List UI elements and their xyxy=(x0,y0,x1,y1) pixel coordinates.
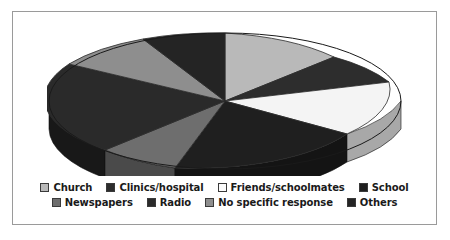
pie-chart-3d xyxy=(47,26,403,176)
legend-swatch-newspapers xyxy=(52,198,61,207)
legend-item-newspapers[interactable]: Newspapers xyxy=(52,197,133,208)
legend-swatch-others xyxy=(347,198,356,207)
chart-legend: Church Clinics/hospital Friends/schoolma… xyxy=(13,180,436,210)
legend-swatch-friends-schoolmates xyxy=(218,183,227,192)
legend-row-2: Newspapers Radio No specific response Ot… xyxy=(13,195,436,210)
legend-item-clinics-hospital[interactable]: Clinics/hospital xyxy=(106,182,203,193)
legend-item-church[interactable]: Church xyxy=(40,182,92,193)
legend-row-1: Church Clinics/hospital Friends/schoolma… xyxy=(13,180,436,195)
legend-swatch-school xyxy=(359,183,368,192)
legend-swatch-no-specific-response xyxy=(205,198,214,207)
legend-swatch-radio xyxy=(147,198,156,207)
legend-label-others: Others xyxy=(360,197,397,208)
pie-chart-area xyxy=(13,12,436,172)
legend-label-clinics-hospital: Clinics/hospital xyxy=(119,182,203,193)
legend-label-church: Church xyxy=(53,182,92,193)
legend-item-others[interactable]: Others xyxy=(347,197,397,208)
legend-item-no-specific-response[interactable]: No specific response xyxy=(205,197,333,208)
legend-label-newspapers: Newspapers xyxy=(65,197,133,208)
legend-item-school[interactable]: School xyxy=(359,182,409,193)
legend-swatch-clinics-hospital xyxy=(106,183,115,192)
legend-label-no-specific-response: No specific response xyxy=(218,197,333,208)
legend-swatch-church xyxy=(40,183,49,192)
legend-label-friends-schoolmates: Friends/schoolmates xyxy=(231,182,345,193)
chart-frame: Church Clinics/hospital Friends/schoolma… xyxy=(12,11,437,225)
legend-item-friends-schoolmates[interactable]: Friends/schoolmates xyxy=(218,182,345,193)
legend-label-radio: Radio xyxy=(160,197,191,208)
legend-item-radio[interactable]: Radio xyxy=(147,197,191,208)
legend-label-school: School xyxy=(372,182,409,193)
